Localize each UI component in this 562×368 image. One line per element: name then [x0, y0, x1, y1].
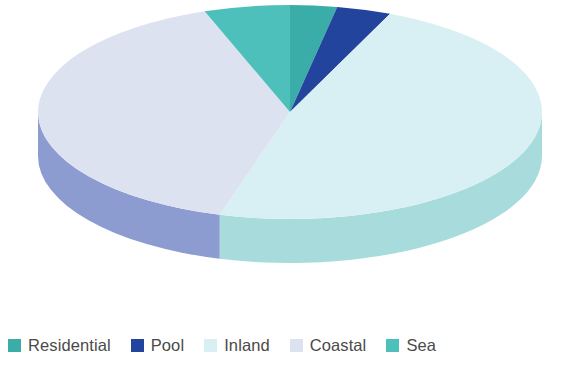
legend-item-label: Sea	[406, 337, 436, 354]
pie-plot-area: Residential: 3%Pool: 3.5%Inland: 48%Coas…	[0, 0, 562, 322]
legend-swatch-icon	[131, 339, 144, 352]
legend-item-label: Coastal	[310, 337, 367, 354]
legend-item-label: Residential	[28, 337, 111, 354]
pie-top-slices: Residential: 3%Pool: 3.5%Inland: 48%Coas…	[38, 5, 542, 219]
chart-legend: ResidentialPoolInlandCoastalSea	[0, 330, 562, 360]
legend-item-residential[interactable]: Residential	[8, 337, 111, 354]
legend-item-coastal[interactable]: Coastal	[290, 337, 367, 354]
legend-item-pool[interactable]: Pool	[131, 337, 184, 354]
legend-swatch-icon	[8, 339, 21, 352]
legend-swatch-icon	[386, 339, 399, 352]
legend-swatch-icon	[204, 339, 217, 352]
legend-swatch-icon	[290, 339, 303, 352]
legend-item-inland[interactable]: Inland	[204, 337, 270, 354]
pie-chart-svg: Residential: 3%Pool: 3.5%Inland: 48%Coas…	[0, 0, 562, 322]
legend-item-sea[interactable]: Sea	[386, 337, 436, 354]
legend-item-label: Inland	[224, 337, 270, 354]
pie-chart-figure: Residential: 3%Pool: 3.5%Inland: 48%Coas…	[0, 0, 562, 368]
legend-item-label: Pool	[151, 337, 184, 354]
